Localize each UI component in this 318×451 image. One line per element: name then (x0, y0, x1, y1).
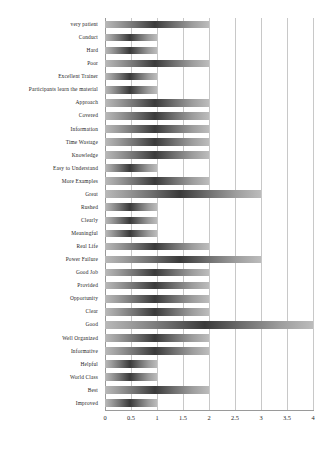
bar (105, 399, 157, 407)
category-label: Well Organized (0, 332, 102, 345)
category-label: Approach (0, 96, 102, 109)
bar-row (105, 358, 313, 371)
category-label: Participants learn the material (0, 83, 102, 96)
bar-row (105, 83, 313, 96)
category-label: Best (0, 384, 102, 397)
bar-row (105, 96, 313, 109)
bar-row (105, 123, 313, 136)
bar (105, 34, 157, 42)
bar-row (105, 201, 313, 214)
bar-row (105, 214, 313, 227)
category-label: Rushed (0, 201, 102, 214)
category-label: Knowledge (0, 149, 102, 162)
bar (105, 203, 157, 211)
x-tick-label: 1.5 (179, 414, 187, 421)
x-tick-label: 2 (207, 414, 210, 421)
x-tick-label: 2.5 (231, 414, 239, 421)
bar (105, 177, 209, 185)
bar-row (105, 397, 313, 410)
x-tick-label: 1 (155, 414, 158, 421)
category-axis-labels: very patientConductHardPoorExcellent Tra… (0, 18, 102, 410)
bar (105, 347, 209, 355)
bar (105, 269, 209, 277)
category-label: Clearly (0, 214, 102, 227)
x-tick-label: 3 (259, 414, 262, 421)
bar (105, 256, 261, 264)
bar (105, 386, 209, 394)
category-label: Clear (0, 305, 102, 318)
bar-row (105, 253, 313, 266)
bar-row (105, 318, 313, 331)
bar-row (105, 109, 313, 122)
bar (105, 373, 157, 381)
bar-row (105, 44, 313, 57)
category-label: Good (0, 318, 102, 331)
bar-row (105, 188, 313, 201)
bar-row (105, 162, 313, 175)
x-tick-label: 4 (311, 414, 314, 421)
bar-row (105, 371, 313, 384)
bar (105, 295, 209, 303)
category-label: Good Job (0, 266, 102, 279)
bar-row (105, 279, 313, 292)
gridline-4 (313, 18, 314, 410)
bar-row (105, 292, 313, 305)
bar (105, 282, 209, 290)
bar (105, 190, 261, 198)
bar-row (105, 175, 313, 188)
x-axis-tick-labels: 00.511.522.533.54 (105, 414, 313, 430)
category-label: More Examples (0, 175, 102, 188)
x-tick-label: 0 (103, 414, 106, 421)
category-label: Meaningful (0, 227, 102, 240)
horizontal-bar-chart: very patientConductHardPoorExcellent Tra… (0, 0, 318, 451)
bar (105, 151, 209, 159)
bar-row (105, 57, 313, 70)
category-label: Power Failure (0, 253, 102, 266)
bar (105, 60, 209, 68)
bar (105, 86, 157, 94)
bar (105, 125, 209, 133)
x-axis-line (105, 410, 314, 411)
bar-row (105, 332, 313, 345)
category-label: very patient (0, 18, 102, 31)
category-label: Real Life (0, 240, 102, 253)
bar-row (105, 345, 313, 358)
category-label: Poor (0, 57, 102, 70)
category-label: Improved (0, 397, 102, 410)
category-label: Covered (0, 109, 102, 122)
bar-row (105, 305, 313, 318)
bar (105, 243, 209, 251)
bar (105, 217, 157, 225)
category-label: Easy to Understand (0, 162, 102, 175)
category-label: Time Wastage (0, 136, 102, 149)
bar (105, 230, 157, 238)
bar (105, 164, 157, 172)
bar (105, 21, 209, 29)
category-label: Conduct (0, 31, 102, 44)
bar (105, 334, 209, 342)
bar-row (105, 18, 313, 31)
bar (105, 321, 313, 329)
bar-series (105, 18, 313, 410)
bar (105, 360, 157, 368)
bar-row (105, 149, 313, 162)
bar-row (105, 240, 313, 253)
category-label: Opportunity (0, 292, 102, 305)
category-label: Information (0, 123, 102, 136)
category-label: Excellent Trainer (0, 70, 102, 83)
category-label: Provided (0, 279, 102, 292)
category-label: Informative (0, 345, 102, 358)
plot-area (105, 18, 313, 410)
x-tick-label: 0.5 (127, 414, 135, 421)
category-label: Helpful (0, 358, 102, 371)
category-label: World Class (0, 371, 102, 384)
x-tick-label: 3.5 (283, 414, 291, 421)
bar (105, 47, 157, 55)
bar-row (105, 266, 313, 279)
bar (105, 138, 209, 146)
bar (105, 99, 209, 107)
bar-row (105, 70, 313, 83)
bar (105, 112, 209, 120)
bar (105, 73, 157, 81)
bar-row (105, 384, 313, 397)
